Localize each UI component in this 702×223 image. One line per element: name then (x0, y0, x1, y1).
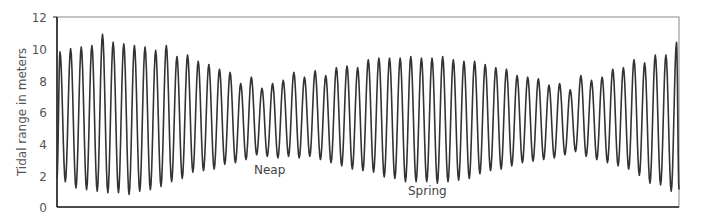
y-tick-4: 4 (39, 138, 47, 152)
y-tick-8: 8 (39, 75, 47, 89)
y-tick-2: 2 (39, 170, 47, 184)
y-tick-10: 10 (32, 43, 47, 57)
tidal-range-chart: 0 2 4 6 8 10 12 Tidal range in meters Ne… (0, 0, 702, 223)
y-tick-labels: 0 2 4 6 8 10 12 (32, 11, 47, 215)
y-tick-6: 6 (39, 106, 47, 120)
y-tick-12: 12 (32, 11, 47, 25)
y-axis-title: Tidal range in meters (15, 48, 29, 177)
tide-waveform-line (57, 34, 679, 194)
y-tick-0: 0 (39, 201, 47, 215)
neap-label: Neap (254, 163, 285, 177)
spring-label: Spring (408, 184, 447, 198)
plot-frame (57, 17, 679, 207)
